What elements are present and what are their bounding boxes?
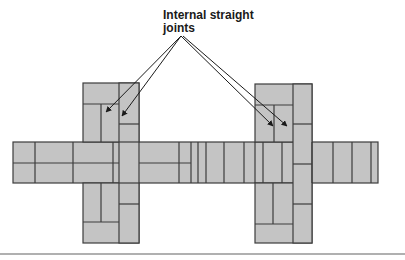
horizontal-rule [0, 253, 405, 255]
arrow-right-1 [181, 36, 273, 126]
arrow-left-2 [122, 36, 181, 116]
arrow-right-2 [183, 36, 287, 126]
brickwork-diagram [0, 0, 405, 260]
arrow-left-1 [106, 36, 181, 112]
horizontal-wall [13, 142, 378, 183]
